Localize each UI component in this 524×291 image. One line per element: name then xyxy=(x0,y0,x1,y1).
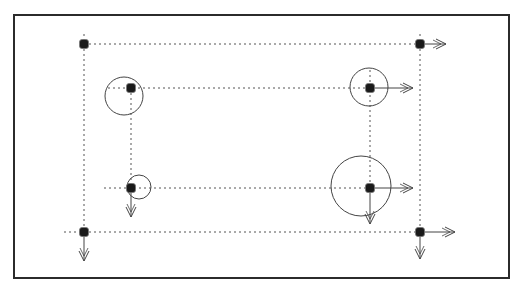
node-n1 xyxy=(80,40,89,49)
node-n6 xyxy=(366,184,375,193)
diagram-svg xyxy=(0,0,524,291)
node-n7 xyxy=(80,228,89,237)
influence-circle xyxy=(105,77,143,115)
node-n2 xyxy=(416,40,425,49)
diagram-canvas xyxy=(0,0,524,291)
node-n3 xyxy=(127,84,136,93)
diagram-frame xyxy=(14,15,509,278)
force-arrow-right xyxy=(370,83,413,93)
force-arrow-down xyxy=(365,188,375,224)
dotted-guide-lines xyxy=(64,34,420,232)
force-arrow-right xyxy=(370,183,413,193)
node-n5 xyxy=(127,184,136,193)
force-arrows xyxy=(79,39,455,261)
force-arrow-right xyxy=(420,227,455,237)
influence-circle xyxy=(331,156,391,216)
node-n8 xyxy=(416,228,425,237)
node-n4 xyxy=(366,84,375,93)
influence-circles xyxy=(105,68,391,216)
